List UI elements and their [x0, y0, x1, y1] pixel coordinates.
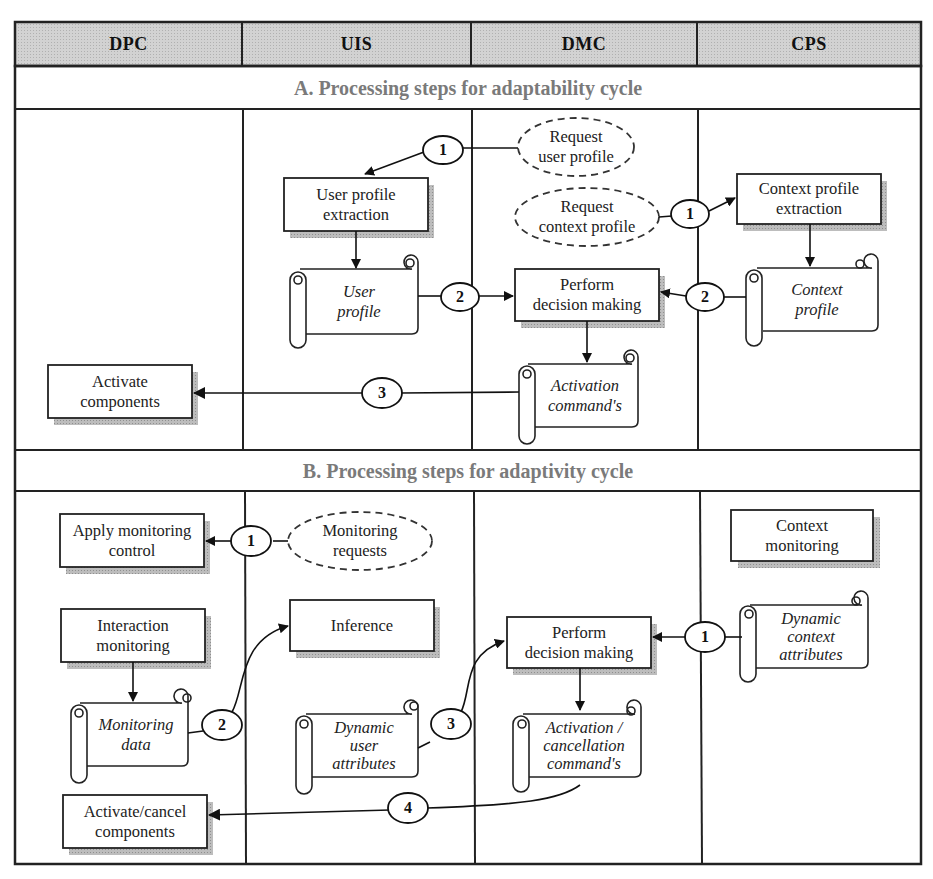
process-context-monitoring: Context monitoring	[731, 510, 873, 561]
process-inference: Inference	[290, 600, 434, 651]
process-perform-decision-making-a: Perform decision making	[515, 269, 659, 321]
monitoring-requests: Monitoring requests	[288, 512, 432, 570]
step-1-user-profile: 1	[423, 136, 463, 164]
step-2-user-profile: 2	[441, 283, 479, 311]
document-activation-cancellation-commands: Activation / cancellation command's	[529, 712, 639, 779]
document-dynamic-user-attributes: Dynamic user attributes	[312, 712, 416, 779]
step-1-context: 1	[685, 622, 725, 652]
process-context-profile-extraction: Context profile extraction	[737, 174, 881, 224]
lane-header-cps: CPS	[697, 22, 921, 66]
connectors-section-b	[133, 541, 742, 815]
document-user-profile: User profile	[306, 269, 412, 334]
request-user-profile: Request user profile	[518, 118, 634, 176]
document-context-profile: Context profile	[762, 268, 872, 331]
step-4-activation-cancel: 4	[388, 793, 428, 823]
step-2-context-profile: 2	[686, 283, 724, 311]
step-1-context-profile: 1	[671, 200, 709, 228]
lane-header-dmc: DMC	[471, 22, 697, 66]
process-activate-components: Activate components	[48, 365, 192, 418]
document-activation-commands: Activation command's	[535, 364, 635, 427]
process-user-profile-extraction: User profile extraction	[284, 178, 428, 231]
request-context-profile: Request context profile	[515, 188, 659, 246]
process-apply-monitoring-control: Apply monitoring control	[60, 514, 204, 567]
document-dynamic-context-attributes: Dynamic context attributes	[756, 603, 866, 670]
process-interaction-monitoring: Interaction monitoring	[61, 609, 205, 662]
section-a-title: A. Processing steps for adaptability cyc…	[15, 67, 921, 109]
lane-header-uis: UIS	[242, 22, 471, 66]
step-1-monitoring: 1	[231, 526, 271, 556]
process-perform-decision-making-b: Perform decision making	[507, 617, 651, 668]
lane-header-dpc: DPC	[15, 22, 242, 66]
step-3-user-attributes: 3	[431, 709, 471, 739]
step-3-activation: 3	[362, 378, 402, 408]
step-2-monitoring-data: 2	[202, 710, 242, 740]
process-activate-cancel-components: Activate/cancel components	[63, 795, 207, 848]
section-b-title: B. Processing steps for adaptivity cycle	[15, 451, 921, 491]
document-monitoring-data: Monitoring data	[87, 703, 185, 766]
